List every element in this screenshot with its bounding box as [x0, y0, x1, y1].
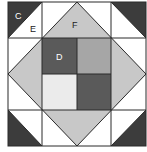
- center-square-br: [77, 74, 111, 110]
- center-square-bl: [42, 74, 77, 110]
- quilt-block-diagram: C E F D: [0, 0, 147, 152]
- label-c: C: [15, 11, 22, 21]
- label-d: D: [56, 52, 63, 62]
- label-e: E: [30, 24, 36, 34]
- label-f: F: [72, 20, 78, 30]
- center-square-tr: [77, 38, 111, 74]
